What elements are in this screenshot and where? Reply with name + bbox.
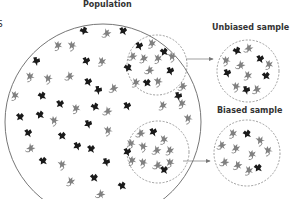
dark-animal-icon (24, 129, 33, 138)
light-animal-icon (152, 160, 163, 172)
dark-animal-icon (117, 181, 127, 191)
light-animal-icon (255, 135, 267, 147)
light-animal-icon (67, 40, 78, 52)
light-animal-icon (154, 54, 163, 64)
population-circle (5, 24, 201, 199)
light-animal-icon (138, 141, 150, 153)
dark-animal-icon (122, 101, 131, 110)
light-animal-icon (252, 84, 261, 95)
light-animal-icon (43, 73, 54, 85)
dark-animal-icon (87, 145, 95, 153)
light-animal-icon (231, 81, 242, 93)
dark-animal-icon (160, 166, 168, 174)
dark-animal-icon (16, 113, 24, 121)
population-label: Population (83, 0, 132, 9)
light-animal-icon (232, 144, 241, 154)
light-animal-icon (148, 39, 156, 49)
light-animal-icon (95, 189, 107, 199)
dark-animal-icon (253, 163, 263, 173)
light-animal-icon (183, 113, 194, 125)
light-animal-icon (166, 146, 175, 156)
light-animal-icon (144, 65, 155, 77)
light-animal-icon (159, 101, 167, 111)
light-animal-icon (178, 81, 188, 92)
dark-animal-icon (119, 27, 128, 36)
light-animal-icon (11, 91, 20, 101)
light-animal-icon (245, 166, 253, 175)
dark-animal-icon (83, 119, 93, 129)
dark-animal-icon (123, 63, 133, 73)
dark-animal-icon (90, 174, 99, 183)
light-animal-icon (244, 71, 252, 81)
light-animal-icon (127, 51, 138, 62)
light-animal-icon (102, 28, 112, 39)
light-animal-icon (102, 106, 113, 118)
light-animal-icon (71, 103, 81, 114)
light-animal-icon (233, 160, 243, 171)
dark-animal-icon (72, 141, 82, 151)
light-animal-icon (247, 149, 256, 159)
light-animal-icon (57, 159, 68, 171)
dark-animal-icon (35, 110, 45, 120)
light-animal-icon (219, 157, 230, 169)
light-animal-icon (265, 60, 274, 70)
light-animal-icon (152, 145, 162, 156)
light-animal-icon (127, 155, 136, 165)
dark-animal-icon (57, 131, 66, 140)
light-animal-icon (25, 71, 35, 82)
dark-animal-icon (222, 68, 232, 78)
biased-sample-label: Biased sample (217, 106, 282, 115)
light-animal-icon (160, 135, 169, 145)
dark-animal-icon (148, 127, 157, 136)
dark-animal-icon (37, 91, 47, 101)
dark-animal-icon (38, 156, 48, 166)
light-animal-icon (25, 143, 36, 155)
light-animal-icon (53, 40, 62, 50)
light-animal-icon (103, 125, 114, 137)
dark-animal-icon (142, 78, 151, 87)
dark-animal-icon (134, 41, 143, 50)
dark-animal-icon (261, 71, 270, 80)
light-animal-icon (217, 140, 227, 151)
light-animal-icon (66, 176, 75, 186)
dark-animal-icon (93, 85, 104, 96)
light-animal-icon (138, 157, 149, 169)
dark-animal-icon (232, 46, 243, 57)
dark-animal-icon (90, 102, 101, 113)
edge-text-fragment: S (0, 19, 3, 29)
light-animal-icon (263, 145, 274, 157)
light-animal-icon (229, 129, 237, 139)
dark-animal-icon (241, 85, 251, 95)
light-animal-icon (64, 71, 75, 83)
dark-animal-icon (256, 55, 265, 64)
dark-animal-icon (31, 56, 42, 67)
unbiased-sample-label: Unbiased sample (212, 23, 289, 32)
light-animal-icon (109, 83, 119, 94)
dark-animal-icon (84, 78, 93, 87)
light-animal-icon (49, 115, 61, 127)
light-animal-icon (165, 157, 175, 168)
light-animal-icon (153, 76, 164, 88)
dark-animal-icon (101, 157, 111, 167)
dark-animal-icon (79, 26, 90, 37)
dark-animal-icon (81, 56, 90, 65)
biased-sample-circle (214, 120, 280, 186)
light-animal-icon (243, 43, 254, 55)
light-animal-icon (235, 60, 246, 72)
dark-animal-icon (173, 91, 184, 102)
light-animal-icon (98, 57, 106, 66)
light-animal-icon (139, 54, 148, 64)
light-animal-icon (221, 55, 232, 66)
dark-animal-icon (242, 129, 252, 139)
dark-animal-icon (56, 100, 64, 108)
dark-animal-icon (165, 66, 175, 76)
